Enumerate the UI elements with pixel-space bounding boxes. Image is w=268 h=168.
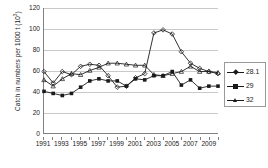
legend-item-2[interactable]: 32 (227, 94, 254, 106)
x-tick-label: 1997 (91, 141, 106, 148)
data-point (42, 90, 46, 94)
line-chart: Catch in numbers per 1000 t (103) 020406… (0, 0, 268, 168)
data-point (207, 84, 211, 88)
x-tick-mark (144, 137, 145, 140)
legend-label-1: 29 (246, 83, 254, 90)
x-tick-label: 1995 (72, 141, 87, 148)
x-tick-mark (200, 137, 201, 140)
y-tick-label: 120 (29, 5, 40, 12)
data-point (79, 85, 83, 89)
x-tick-label: 1991 (36, 141, 51, 148)
x-tick-mark (52, 137, 53, 140)
x-tick-mark (181, 137, 182, 140)
legend-item-0[interactable]: 28.1 (227, 66, 259, 78)
x-tick-mark (107, 137, 108, 140)
data-point (216, 84, 220, 88)
x-tick-label: 1993 (54, 141, 69, 148)
y-axis-tick-labels: 020406080100120 (20, 8, 40, 134)
data-point (115, 79, 119, 83)
data-point (51, 92, 55, 96)
data-point (88, 79, 92, 83)
legend-label-2: 32 (246, 97, 254, 104)
y-tick-label: 0 (36, 131, 40, 138)
data-point (143, 78, 147, 82)
x-tick-label: 2009 (201, 141, 216, 148)
x-tick-label: 2005 (165, 141, 180, 148)
data-point (61, 94, 65, 98)
data-point (125, 84, 129, 88)
x-tick-mark (163, 137, 164, 140)
y-tick-label: 100 (29, 26, 40, 33)
legend-marker-square-icon (227, 82, 244, 91)
x-tick-mark (71, 137, 72, 140)
data-point (70, 92, 74, 96)
data-point (189, 78, 193, 82)
series-28.1 (42, 28, 221, 90)
x-tick-mark (126, 137, 127, 140)
legend: 28.1 29 32 (224, 62, 266, 107)
x-tick-mark (89, 137, 90, 140)
legend-item-1[interactable]: 29 (227, 80, 254, 92)
data-point (180, 83, 184, 87)
y-axis-title-exponent: 3 (13, 13, 18, 16)
y-tick-label: 40 (33, 89, 40, 96)
legend-marker-triangle-icon (227, 96, 244, 105)
data-point (42, 78, 46, 82)
x-tick-label: 1999 (109, 141, 124, 148)
plot-area (43, 8, 218, 134)
x-axis-tick-labels: 1991199319951997199920012003200520072009 (43, 137, 218, 151)
series-lines (44, 8, 218, 133)
x-tick-mark (218, 137, 219, 140)
y-tick-label: 80 (33, 47, 40, 54)
data-point (97, 77, 101, 81)
x-tick-label: 2001 (128, 141, 143, 148)
y-tick-label: 20 (33, 110, 40, 117)
data-point (198, 86, 202, 90)
legend-label-0: 28.1 (246, 69, 259, 76)
x-tick-label: 2003 (146, 141, 161, 148)
y-tick-label: 60 (33, 68, 40, 75)
legend-marker-diamond-icon (227, 68, 244, 77)
x-tick-label: 2007 (183, 141, 198, 148)
data-point (106, 79, 110, 83)
data-point (134, 77, 138, 81)
